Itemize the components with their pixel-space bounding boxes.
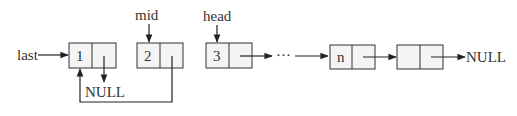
node-n-value: n (337, 49, 345, 65)
tail-null-label: NULL (466, 49, 506, 65)
head-pointer-label: head (203, 8, 232, 24)
node-1-value: 1 (76, 48, 84, 64)
mid-pointer-label: mid (135, 7, 159, 23)
node-2: 2 (137, 43, 183, 68)
node-3-value: 3 (213, 48, 221, 64)
node-1: 1 (69, 43, 116, 68)
linked-list-diagram: last mid head 1 NULL 2 3 ··· n (0, 0, 517, 116)
node-1-null-label: NULL (85, 84, 125, 100)
ellipsis: ··· (276, 47, 291, 63)
last-pointer-label: last (17, 47, 39, 63)
node-2-value: 2 (144, 48, 152, 64)
